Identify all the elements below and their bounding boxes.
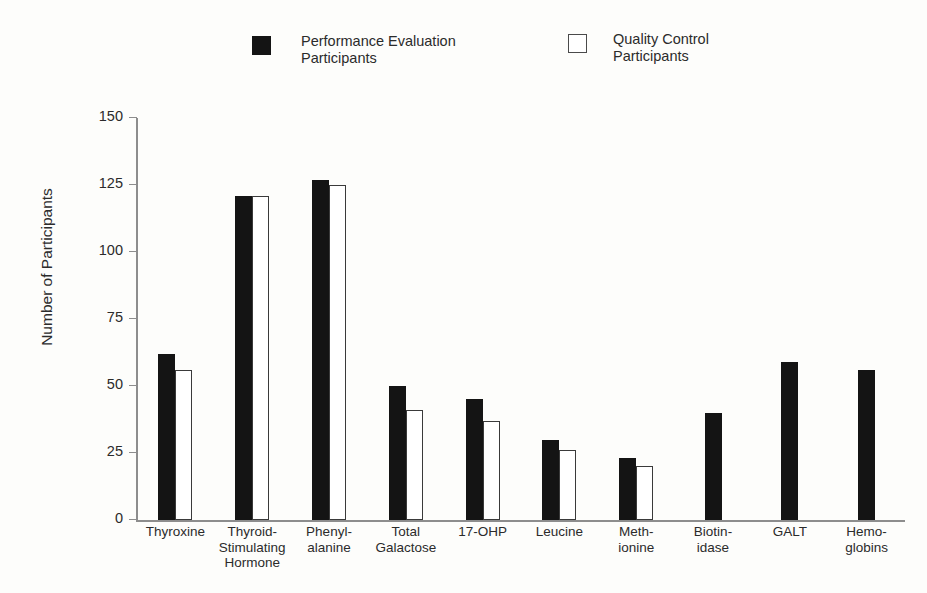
legend-label-performance-evaluation: Performance Evaluation Participants (301, 33, 456, 67)
y-axis-tick: 75 (129, 318, 137, 320)
bar-quality-control (329, 185, 346, 520)
chart-legend: Performance Evaluation Participants Qual… (0, 0, 927, 90)
bar-series-container: ThyroxineThyroid- Stimulating HormonePhe… (137, 118, 905, 520)
bar-performance-evaluation (619, 458, 636, 520)
y-axis-tick-label: 75 (83, 309, 123, 325)
bar-quality-control (483, 421, 500, 520)
y-axis-tick-label: 25 (83, 443, 123, 459)
y-axis-tick-label: 150 (83, 108, 123, 124)
bar-group: Phenyl- alanine (312, 118, 346, 520)
bar-group: Meth- ionine (619, 118, 653, 520)
bar-performance-evaluation (235, 196, 252, 520)
bar-performance-evaluation (312, 180, 329, 520)
y-axis-title: Number of Participants (38, 157, 56, 377)
x-axis-line (136, 520, 905, 522)
bar-performance-evaluation (858, 370, 875, 520)
plot-area: 0255075100125150 ThyroxineThyroid- Stimu… (137, 118, 905, 520)
open-square-icon (568, 34, 587, 53)
y-axis-tick: 50 (129, 385, 137, 387)
bar-quality-control (252, 196, 269, 520)
y-axis-tick: 125 (129, 184, 137, 186)
bar-quality-control (636, 466, 653, 520)
bar-group: Thyroid- Stimulating Hormone (235, 118, 269, 520)
bar-quality-control (559, 450, 576, 520)
bar-performance-evaluation (466, 399, 483, 520)
y-axis-tick-label: 125 (83, 175, 123, 191)
y-axis-tick-label: 100 (83, 242, 123, 258)
legend-entry-performance-evaluation: Performance Evaluation Participants (252, 33, 456, 67)
bar-performance-evaluation (389, 386, 406, 520)
bar-group: Hemo- globins (858, 118, 875, 520)
bar-group: GALT (781, 118, 798, 520)
bar-chart-figure: Performance Evaluation Participants Qual… (0, 0, 927, 593)
legend-entry-quality-control: Quality Control Participants (568, 31, 709, 65)
bar-quality-control (406, 410, 423, 520)
y-axis-tick: 150 (129, 117, 137, 119)
bar-performance-evaluation (781, 362, 798, 520)
x-axis-category-label: Hemo- globins (802, 524, 927, 555)
bar-group: 17-OHP (466, 118, 500, 520)
filled-square-icon (252, 36, 271, 55)
bar-performance-evaluation (542, 440, 559, 520)
bar-group: Total Galactose (389, 118, 423, 520)
legend-label-quality-control: Quality Control Participants (613, 31, 709, 65)
y-axis-tick: 0 (129, 519, 137, 521)
bar-performance-evaluation (158, 354, 175, 520)
y-axis-tick-label: 50 (83, 376, 123, 392)
bar-quality-control (175, 370, 192, 520)
bar-performance-evaluation (705, 413, 722, 520)
y-axis-tick: 25 (129, 452, 137, 454)
bar-group: Thyroxine (158, 118, 192, 520)
bar-group: Leucine (542, 118, 576, 520)
bar-group: Biotin- idase (705, 118, 722, 520)
y-axis-tick: 100 (129, 251, 137, 253)
